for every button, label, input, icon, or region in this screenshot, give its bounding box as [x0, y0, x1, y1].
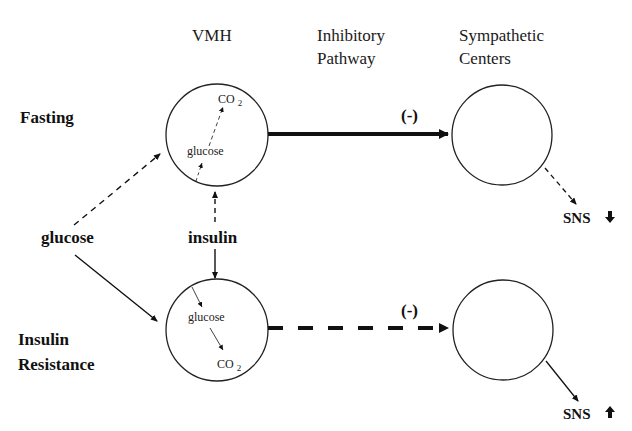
arrow-glucose-to-co2-fasting [209, 107, 223, 146]
co2-text: CO [218, 92, 235, 106]
down-arrow-icon [605, 211, 615, 223]
vmh-fasting-co2-label: CO2 [218, 92, 242, 108]
vmh-node-insulin-resistance: glucose CO2 [166, 279, 268, 381]
input-insulin-label: insulin [188, 228, 238, 247]
vmh-resistance-co2-label: CO2 [217, 357, 241, 373]
vmh-resistance-glucose-label: glucose [188, 310, 225, 324]
header-vmh: VMH [192, 26, 232, 45]
arrow-center-to-sns-resistance [546, 361, 578, 401]
sympathetic-center-node-fasting [452, 85, 552, 185]
arrow-glucose-to-vmh-fasting [74, 154, 160, 225]
input-glucose-label: glucose [41, 228, 94, 247]
co2-subscript: 2 [237, 363, 242, 373]
co2-text: CO [217, 357, 234, 371]
arrow-center-to-sns-fasting [545, 168, 576, 204]
header-sympathetic-centers-line1: Sympathetic [459, 26, 544, 45]
arrow-edge-to-glucose-resistance [192, 287, 202, 307]
arrow-glucose-to-co2-resistance [210, 328, 223, 350]
arrow-glucose-to-vmh-resistance [75, 255, 157, 321]
header-inhibitory-pathway-line2: Pathway [317, 49, 376, 68]
sns-output-fasting-label: SNS [563, 210, 591, 226]
inhibitory-sign-resistance: (-) [401, 301, 418, 320]
vmh-node-fasting: glucose CO2 [166, 84, 268, 186]
row-label-insulin-resistance-line2: Resistance [18, 355, 95, 374]
vmh-sns-diagram: VMH Inhibitory Pathway Sympathetic Cente… [0, 0, 632, 431]
row-label-insulin-resistance-line1: Insulin [18, 330, 70, 349]
up-arrow-icon [605, 406, 615, 418]
vmh-fasting-glucose-label: glucose [187, 144, 224, 158]
inhibitory-sign-fasting: (-) [401, 106, 418, 125]
header-sympathetic-centers-line2: Centers [459, 49, 511, 68]
row-label-fasting: Fasting [20, 108, 74, 127]
sympathetic-center-node-resistance [453, 280, 553, 380]
header-inhibitory-pathway-line1: Inhibitory [317, 26, 385, 45]
sns-output-resistance-label: SNS [563, 406, 591, 422]
arrow-edge-to-glucose-fasting [196, 163, 202, 181]
co2-subscript: 2 [238, 98, 243, 108]
